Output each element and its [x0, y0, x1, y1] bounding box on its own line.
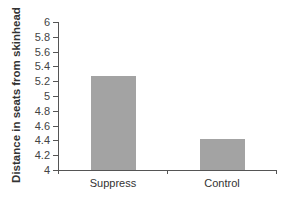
y-tick-label: 4 [44, 164, 50, 176]
x-axis-tick [58, 170, 59, 174]
y-tick-label: 4.2 [35, 149, 50, 161]
bar-chart: Distance in seats from skinhead 44.24.44… [0, 0, 291, 203]
bar-control [200, 139, 245, 170]
y-axis-title: Distance in seats from skinhead [10, 7, 22, 183]
bar-suppress [91, 76, 136, 170]
y-tick-label: 5.2 [35, 75, 50, 87]
y-tick-label: 5.6 [35, 46, 50, 58]
y-tick-label: 6 [44, 16, 50, 28]
y-tick-label: 4.6 [35, 120, 50, 132]
x-tick-label: Control [204, 177, 239, 189]
x-axis-tick [276, 170, 277, 174]
y-tick-label: 4.4 [35, 134, 50, 146]
y-tick-label: 5.8 [35, 31, 50, 43]
y-tick-label: 5 [44, 90, 50, 102]
x-tick-label: Suppress [90, 177, 136, 189]
y-axis-line [58, 22, 59, 171]
y-tick-label: 5.4 [35, 60, 50, 72]
x-axis-tick [167, 170, 168, 174]
y-tick-label: 4.8 [35, 105, 50, 117]
